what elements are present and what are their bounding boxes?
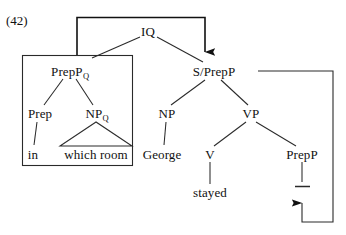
terminal-george: George xyxy=(143,148,182,161)
node-np-q-subscript: Q xyxy=(103,112,109,122)
node-s-prepp: S/PrepP xyxy=(193,65,236,78)
terminal-which-room: which room xyxy=(64,148,127,161)
node-prepp-trace-parent: PrepP xyxy=(286,148,318,161)
node-prepp-q: PrepPQ xyxy=(51,65,89,78)
node-iq: IQ xyxy=(141,25,155,38)
edge-s-vp xyxy=(221,80,248,105)
node-np-q: NPQ xyxy=(85,107,108,120)
edge-vp-prepp xyxy=(256,122,296,146)
node-v: V xyxy=(205,148,215,161)
edge-iq-s-prepp xyxy=(157,37,203,62)
node-vp: VP xyxy=(243,107,260,120)
node-prepp-q-label: PrepP xyxy=(51,64,83,79)
triangle-which-room xyxy=(60,122,132,146)
tree-diagram-figure: (42) IQ PrepPQ Prep NPQ in which room S/… xyxy=(0,0,346,235)
edge-iq-prepp xyxy=(92,37,140,58)
node-prep: Prep xyxy=(28,107,52,120)
terminal-in: in xyxy=(28,148,38,161)
node-np: NP xyxy=(159,107,176,120)
edge-s-np xyxy=(171,80,205,105)
terminal-stayed: stayed xyxy=(193,186,227,199)
edge-vp-v xyxy=(214,122,246,146)
edge-prepp-np xyxy=(76,79,93,105)
edge-np-george xyxy=(164,122,166,145)
node-prepp-q-subscript: Q xyxy=(83,70,89,80)
edge-prep-in xyxy=(34,122,37,145)
node-np-q-label: NP xyxy=(85,106,102,121)
example-number: (42) xyxy=(6,14,28,27)
edge-prepp-prep xyxy=(44,79,63,105)
